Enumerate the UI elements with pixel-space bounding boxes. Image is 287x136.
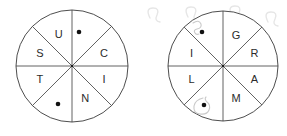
right-wheel-label-R: R — [251, 47, 259, 59]
left-wheel-label-S: S — [36, 47, 43, 59]
watermark-mark-4 — [266, 12, 278, 26]
right-wheel-label-M: M — [231, 92, 240, 104]
left-wheel-dot-2 — [56, 102, 61, 107]
right-wheel-label-L: L — [188, 73, 194, 85]
left-wheel[interactable]: CINTSU — [16, 10, 128, 122]
left-wheel-hub — [71, 65, 73, 67]
right-wheel-label-I: I — [190, 47, 193, 59]
right-wheel-dot-1 — [200, 30, 205, 35]
left-wheel-label-C: C — [100, 47, 108, 59]
left-wheel-label-U: U — [55, 28, 63, 40]
right-wheel-hub — [222, 65, 224, 67]
two-spinner-wheels-figure: CINTSU GRAMLI — [0, 0, 287, 136]
left-wheel-label-T: T — [37, 73, 44, 85]
figure-canvas: CINTSU GRAMLI — [0, 0, 287, 136]
right-wheel-dot-2 — [202, 103, 207, 108]
left-wheel-dot-1 — [77, 30, 82, 35]
left-wheel-label-N: N — [81, 92, 89, 104]
watermark-mark-1 — [148, 8, 160, 22]
right-wheel[interactable]: GRAMLI — [168, 11, 278, 121]
right-wheel-label-G: G — [232, 29, 241, 41]
left-wheel-label-I: I — [103, 73, 106, 85]
right-wheel-label-A: A — [251, 73, 259, 85]
